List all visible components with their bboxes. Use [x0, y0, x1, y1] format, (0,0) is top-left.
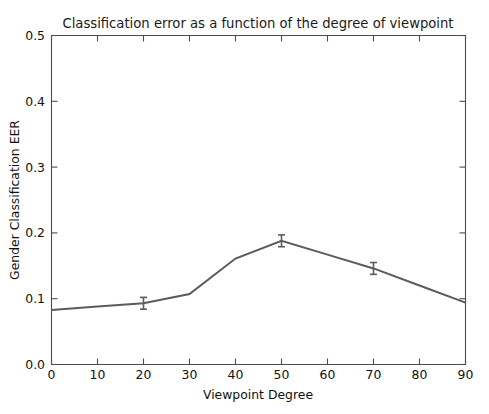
y-tick-label: 0.5: [25, 28, 45, 43]
x-tick-label: 10: [90, 367, 106, 382]
x-tick-label: 0: [48, 367, 56, 382]
chart-background: [0, 0, 489, 414]
x-axis-label: Viewpoint Degree: [203, 387, 313, 402]
figure-canvas: · · · · · · · · · · · · Classification e…: [0, 0, 489, 414]
y-tick-label: 0.4: [25, 94, 45, 109]
y-tick-label: 0.2: [25, 225, 45, 240]
x-tick-label: 70: [366, 367, 382, 382]
y-tick-label: 0.3: [25, 160, 45, 175]
x-tick-label: 30: [182, 367, 198, 382]
chart-title: Classification error as a function of th…: [62, 16, 453, 31]
x-tick-label: 60: [320, 367, 336, 382]
x-tick-label: 50: [274, 367, 290, 382]
x-tick-label: 80: [412, 367, 428, 382]
x-tick-label: 20: [136, 367, 152, 382]
y-axis-label: Gender Classification EER: [7, 120, 22, 280]
x-tick-label: 90: [458, 367, 474, 382]
x-tick-label: 40: [228, 367, 244, 382]
y-tick-label: 0.1: [25, 291, 45, 306]
y-tick-label: 0.0: [25, 357, 45, 372]
classification-error-line-chart: Classification error as a function of th…: [0, 0, 489, 414]
